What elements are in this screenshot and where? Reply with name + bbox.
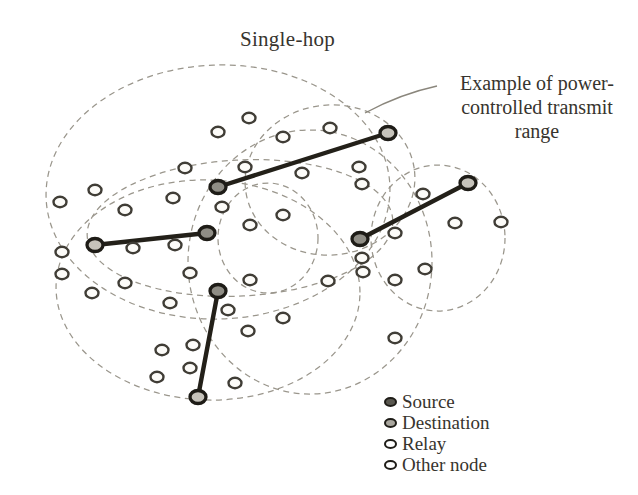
relay-node [356, 253, 369, 263]
annotation-line: Example of power- [438, 71, 636, 95]
legend-item-other-node: Other node [384, 454, 490, 475]
legend-label: Other node [402, 454, 487, 475]
relay-node [244, 275, 257, 285]
source-node-icon [384, 397, 397, 407]
relay-node [169, 240, 182, 250]
relay-node [119, 278, 132, 288]
source-node [210, 181, 226, 194]
relay-node [243, 113, 256, 123]
destination-node [380, 127, 396, 140]
other-node-icon [384, 460, 397, 470]
relay-node [179, 163, 192, 173]
relay-node [495, 217, 508, 227]
source-node [352, 233, 368, 246]
relay-node [156, 345, 169, 355]
relay-node [187, 340, 200, 350]
relay-node [127, 243, 140, 253]
relay-node [356, 179, 369, 189]
relay-node [54, 197, 67, 207]
legend: Source Destination Relay Other node [384, 391, 490, 475]
destination-node [460, 177, 476, 190]
relay-node [184, 363, 197, 373]
relay-node [277, 210, 290, 220]
transmit-range-ellipse [52, 175, 363, 405]
relay-node [353, 162, 366, 172]
relay-node [277, 132, 290, 142]
relay-node [389, 275, 402, 285]
relay-node [212, 127, 225, 137]
relay-node [184, 268, 197, 278]
relay-node [56, 247, 69, 257]
destination-node [87, 239, 103, 252]
relay-node [56, 269, 69, 279]
source-node [210, 285, 226, 298]
source-node [199, 227, 215, 240]
transmit-range-ellipse [188, 130, 432, 394]
legend-label: Source [402, 391, 455, 412]
relay-node [419, 264, 432, 274]
transmit-range-ellipse [218, 183, 318, 293]
annotation-line: controlled transmit [438, 95, 636, 119]
figure-title: Single-hop [200, 27, 375, 52]
relay-node [86, 288, 99, 298]
relay-node [277, 313, 290, 323]
relay-node [324, 123, 337, 133]
relay-node [296, 168, 309, 178]
relay-node [417, 189, 430, 199]
relay-node [242, 326, 255, 336]
relay-node [244, 220, 257, 230]
relay-node [119, 205, 132, 215]
relay-node [449, 218, 462, 228]
legend-item-destination: Destination [384, 412, 490, 433]
legend-label: Destination [402, 412, 490, 433]
relay-node [89, 185, 102, 195]
relay-node [239, 162, 252, 172]
relay-node [151, 372, 164, 382]
legend-item-relay: Relay [384, 433, 490, 454]
relay-node [389, 228, 402, 238]
destination-node [190, 391, 206, 404]
relay-node [222, 305, 235, 315]
destination-node-icon [384, 418, 397, 428]
network-diagram-figure: Single-hop Example of power- controlled … [0, 0, 638, 495]
relay-node [389, 333, 402, 343]
relay-node [322, 276, 335, 286]
legend-label: Relay [402, 433, 446, 454]
annotation-line: range [438, 119, 636, 143]
relay-node [229, 378, 242, 388]
relay-node [357, 267, 370, 277]
source-destination-link [198, 291, 218, 397]
annotation-text: Example of power- controlled transmit ra… [438, 71, 636, 143]
relay-node [167, 193, 180, 203]
legend-item-source: Source [384, 391, 490, 412]
relay-node [216, 202, 229, 212]
relay-node [164, 298, 177, 308]
relay-node-icon [384, 439, 397, 449]
annotation-leader-line [365, 86, 437, 113]
